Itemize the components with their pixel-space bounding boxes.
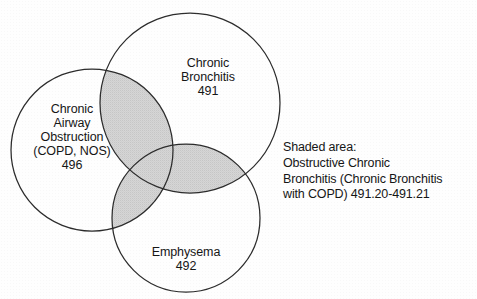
legend-line-4: with COPD) 491.20-491.21 [283,187,477,203]
legend-line-2: Obstructive Chronic [283,156,477,172]
legend-line-1: Shaded area: [283,140,477,156]
legend-line-3: Bronchitis (Chronic Bronchitis [283,172,477,188]
legend-shaded-area: Shaded area: Obstructive Chronic Bronchi… [283,140,477,203]
venn-diagram-figure: Chronic Airway Obstruction (COPD, NOS) 4… [0,0,477,299]
